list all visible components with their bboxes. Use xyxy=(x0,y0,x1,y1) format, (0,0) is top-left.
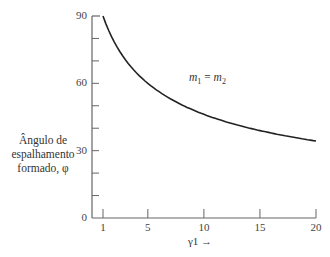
x-tick-5: 5 xyxy=(133,221,163,233)
x-tick-20: 20 xyxy=(301,221,330,233)
y-tick-30: 30 xyxy=(57,144,87,156)
y-tick-60: 60 xyxy=(57,76,87,88)
x-tick-1: 1 xyxy=(88,221,118,233)
y-axis-label-line-3: formado, φ xyxy=(0,161,86,175)
x-tick-10: 10 xyxy=(189,221,219,233)
axes xyxy=(92,16,316,218)
curve-annotation: m1 = m2 xyxy=(189,71,226,86)
x-tick-15: 15 xyxy=(245,221,275,233)
chart-plot-area xyxy=(0,0,330,257)
y-tick-0: 0 xyxy=(57,211,87,223)
y-tick-90: 90 xyxy=(57,9,87,21)
x-axis-label: γ1 → xyxy=(188,235,212,247)
